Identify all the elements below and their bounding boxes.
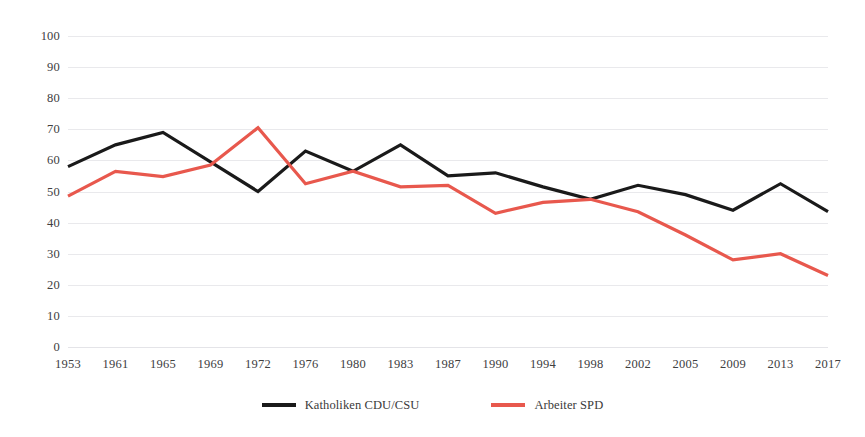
- y-tick-label-40: 40: [14, 217, 60, 230]
- x-tick-label-2009: 2009: [710, 357, 756, 371]
- y-tick-label-30: 30: [14, 248, 60, 261]
- gridline-0: [68, 347, 828, 348]
- x-tick-label-1976: 1976: [283, 357, 329, 371]
- x-tick-label-1961: 1961: [93, 357, 139, 371]
- y-tick-label-90: 90: [14, 61, 60, 74]
- x-tick-label-2017: 2017: [805, 357, 851, 371]
- y-tick-label-50: 50: [14, 186, 60, 199]
- x-tick-label-1994: 1994: [520, 357, 566, 371]
- y-tick-label-10: 10: [14, 310, 60, 323]
- plot-area: [68, 36, 828, 347]
- x-tick-label-1953: 1953: [45, 357, 91, 371]
- legend-label: Katholiken CDU/CSU: [305, 398, 420, 412]
- series-lines: [68, 36, 828, 347]
- x-tick-label-2005: 2005: [663, 357, 709, 371]
- x-tick-label-1990: 1990: [473, 357, 519, 371]
- x-tick-label-1969: 1969: [188, 357, 234, 371]
- legend-label: Arbeiter SPD: [534, 398, 603, 412]
- legend-item-0[interactable]: Katholiken CDU/CSU: [262, 398, 420, 412]
- legend-swatch-icon: [262, 403, 296, 406]
- line-chart: 0102030405060708090100 19531961196519691…: [0, 0, 865, 437]
- y-tick-label-0: 0: [14, 341, 60, 354]
- y-tick-label-70: 70: [14, 123, 60, 136]
- x-tick-label-1980: 1980: [330, 357, 376, 371]
- chart-legend: Katholiken CDU/CSUArbeiter SPD: [0, 393, 865, 417]
- x-tick-label-1965: 1965: [140, 357, 186, 371]
- legend-item-1[interactable]: Arbeiter SPD: [491, 398, 603, 412]
- y-axis: 0102030405060708090100: [8, 36, 60, 347]
- y-tick-label-100: 100: [14, 30, 60, 43]
- x-tick-label-1972: 1972: [235, 357, 281, 371]
- x-tick-label-2013: 2013: [758, 357, 804, 371]
- x-tick-label-1987: 1987: [425, 357, 471, 371]
- y-tick-label-80: 80: [14, 92, 60, 105]
- y-tick-label-60: 60: [14, 154, 60, 167]
- y-tick-label-20: 20: [14, 279, 60, 292]
- x-axis: 1953196119651969197219761980198319871990…: [68, 357, 828, 377]
- series-line-arbeiter-spd: [68, 128, 828, 276]
- x-tick-label-2002: 2002: [615, 357, 661, 371]
- legend-swatch-icon: [491, 403, 525, 406]
- x-tick-label-1983: 1983: [378, 357, 424, 371]
- x-tick-label-1998: 1998: [568, 357, 614, 371]
